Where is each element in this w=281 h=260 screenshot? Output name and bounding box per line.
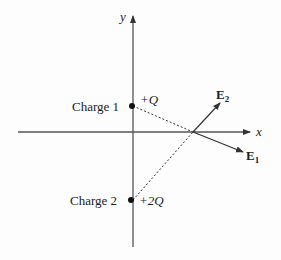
e1-vector-arrow — [193, 132, 243, 152]
charge1-value: +Q — [140, 92, 159, 107]
field-diagram-svg: y x Charge 1 +Q Charge 2 +2Q E2 E1 — [0, 0, 281, 260]
diagram-canvas: y x Charge 1 +Q Charge 2 +2Q E2 E1 — [0, 0, 281, 260]
dashed-line-charge2 — [133, 132, 193, 200]
e1-label: E1 — [246, 148, 260, 165]
x-axis-label: x — [255, 124, 262, 139]
e2-label: E2 — [216, 87, 230, 104]
charge1-label: Charge 1 — [72, 99, 119, 114]
e2-vector-arrow — [193, 103, 220, 132]
charge2-label: Charge 2 — [70, 193, 117, 208]
charge1-dot — [129, 103, 135, 109]
dashed-line-charge1 — [133, 106, 193, 132]
charge2-value: +2Q — [139, 193, 164, 208]
charge2-dot — [128, 197, 134, 203]
y-axis-label: y — [118, 9, 126, 24]
